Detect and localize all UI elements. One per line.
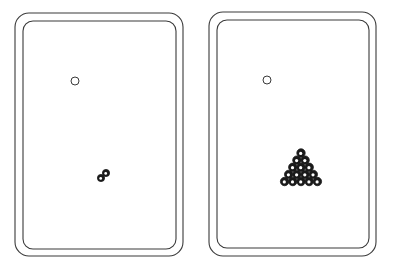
racked-ball-highlight [311,173,314,176]
racked-ball-highlight [291,166,294,169]
billiards-table-right [209,12,376,256]
racked-ball-highlight [291,180,294,183]
racked-ball-highlight [299,180,302,183]
racked-ball-highlight [295,173,298,176]
table-inner-cushion [217,20,369,248]
racked-ball-highlight [303,159,306,162]
racked-ball-highlight [299,152,302,155]
racked-ball-highlight [283,180,286,183]
billiards-illustration [0,0,396,271]
racked-ball-highlight [316,180,319,183]
table-outer-rail [15,13,183,256]
cue-ball [263,76,271,84]
racked-ball-highlight [295,159,298,162]
table-outer-rail [209,12,376,256]
billiards-table-left [15,13,183,256]
cue-ball [71,77,79,85]
racked-ball-highlight [303,173,306,176]
racked-ball-highlight [307,166,310,169]
object-ball-highlight [104,172,107,175]
racked-ball-highlight [287,173,290,176]
racked-ball-highlight [307,180,310,183]
table-inner-cushion [23,21,176,249]
object-ball-highlight [99,177,102,180]
racked-ball-highlight [299,166,302,169]
